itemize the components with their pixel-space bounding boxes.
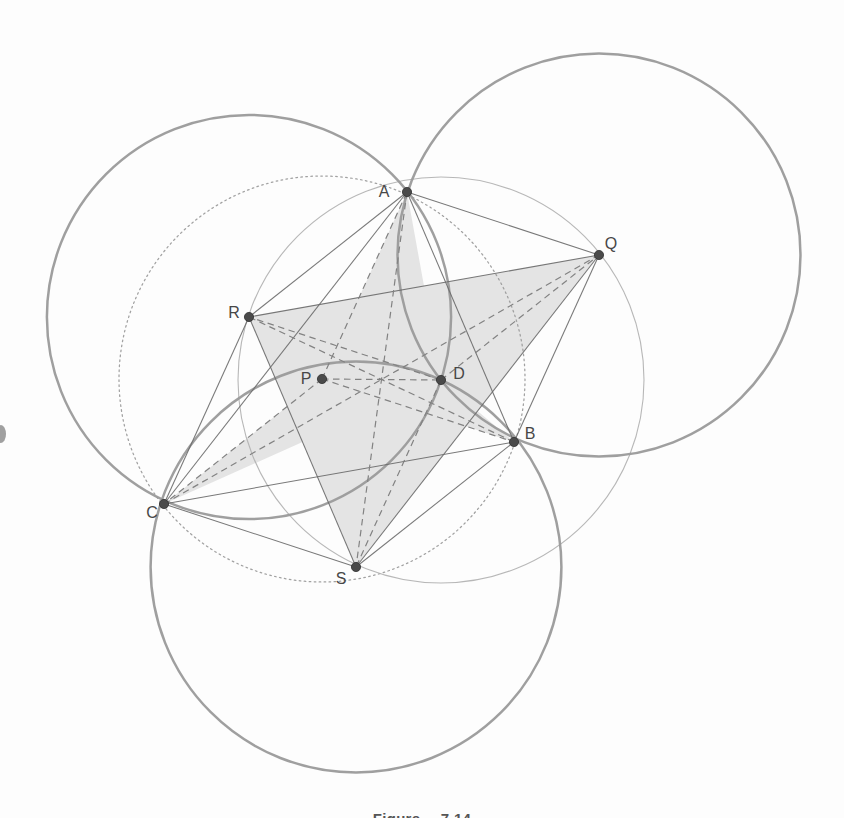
point-C-label: C [146, 504, 158, 521]
solid-segment-S-C [164, 504, 356, 567]
figure-page: ABCDPQRS Figure 7.14 [0, 0, 844, 818]
point-Q-dot [594, 250, 603, 259]
point-A-label: A [379, 183, 390, 200]
point-P-label: P [301, 370, 312, 387]
point-B-label: B [525, 425, 536, 442]
point-R-dot [244, 312, 253, 321]
point-A-dot [402, 187, 411, 196]
point-P-dot [317, 374, 326, 383]
figure-canvas: ABCDPQRS [0, 0, 844, 818]
point-R-label: R [228, 304, 240, 321]
point-C-dot [159, 499, 168, 508]
point-D-dot [436, 375, 445, 384]
point-S-dot [351, 562, 360, 571]
point-S-label: S [336, 570, 347, 587]
point-B-dot [509, 437, 518, 446]
point-Q-label: Q [605, 235, 617, 252]
scan-smudge [0, 425, 6, 443]
point-D-label: D [453, 365, 465, 382]
figure-caption: Figure 7.14 [0, 810, 844, 818]
